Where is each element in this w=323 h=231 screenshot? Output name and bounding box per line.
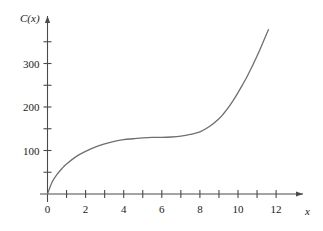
- y-tick-label: 100: [8, 145, 40, 156]
- y-axis: [44, 16, 52, 202]
- x-tick-label: 12: [271, 204, 282, 215]
- x-tick-label: 8: [197, 204, 203, 215]
- x-tick-label: 0: [45, 204, 51, 215]
- chart-canvas: [0, 0, 323, 231]
- x-axis: [40, 190, 303, 198]
- y-tick-label: 300: [8, 58, 40, 69]
- y-tick-label: 200: [8, 102, 40, 113]
- x-tick-label: 10: [233, 204, 244, 215]
- x-tick-label: 4: [121, 204, 127, 215]
- x-tick-label: 6: [159, 204, 165, 215]
- x-axis-arrow-icon: [296, 191, 303, 196]
- curve-cx: [48, 30, 269, 194]
- x-axis-title: x: [305, 206, 310, 217]
- x-tick-label: 2: [83, 204, 89, 215]
- y-axis-title: C(x): [20, 13, 40, 24]
- y-axis-arrow-icon: [45, 16, 50, 23]
- chart-figure: C(x) x 024681012100200300: [0, 0, 323, 231]
